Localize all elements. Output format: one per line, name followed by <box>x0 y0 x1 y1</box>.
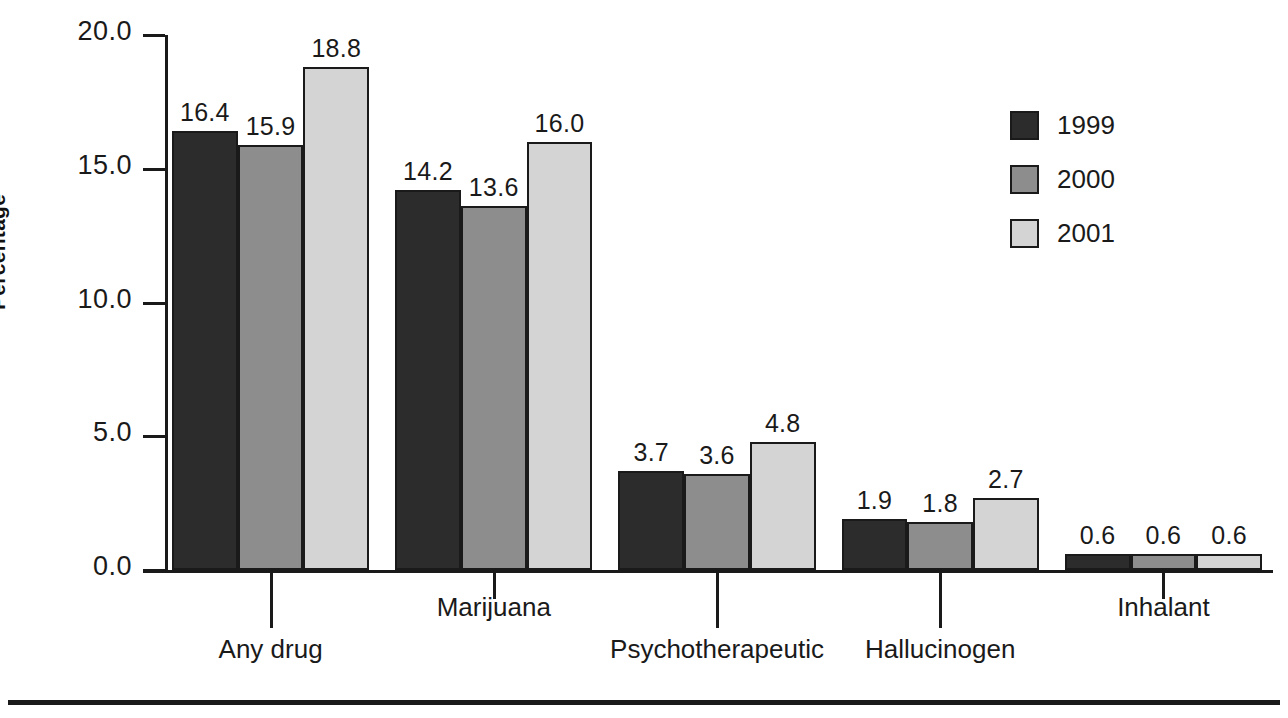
bar <box>238 145 304 570</box>
bar <box>172 131 238 570</box>
bar <box>907 522 973 570</box>
category-label: Inhalant <box>973 592 1288 623</box>
category-label: Any drug <box>81 634 461 665</box>
bar <box>973 498 1039 570</box>
category-label: Marijuana <box>304 592 684 623</box>
bar <box>303 67 369 570</box>
bar <box>842 519 908 570</box>
bar-value-label: 4.8 <box>738 409 828 438</box>
bar-value-label: 3.6 <box>672 441 762 470</box>
bar-chart: Percentage 0.05.010.015.020.0 16.415.918… <box>0 0 1288 718</box>
legend-swatch-2000-icon <box>1010 165 1039 194</box>
bar-value-label: 15.9 <box>226 112 316 141</box>
bar <box>461 206 527 570</box>
legend: 1999 2000 2001 <box>1010 104 1115 266</box>
bars-layer: 16.415.918.814.213.616.03.73.64.81.91.82… <box>0 0 1288 570</box>
category-tick <box>939 573 942 628</box>
legend-swatch-2001-icon <box>1010 219 1039 248</box>
bar <box>1065 554 1131 570</box>
category-tick <box>716 573 719 628</box>
bar <box>1131 554 1197 570</box>
footer-divider <box>8 700 1280 705</box>
bar-value-label: 2.7 <box>961 465 1051 494</box>
bar <box>684 474 750 570</box>
legend-item-2000: 2000 <box>1010 158 1115 200</box>
category-label: Hallucinogen <box>750 634 1130 665</box>
legend-swatch-1999-icon <box>1010 111 1039 140</box>
category-tick <box>270 573 273 628</box>
bar-value-label: 16.0 <box>515 109 605 138</box>
legend-label-1999: 1999 <box>1057 110 1115 141</box>
legend-item-1999: 1999 <box>1010 104 1115 146</box>
bar <box>395 190 461 570</box>
bar <box>1196 554 1262 570</box>
legend-item-2001: 2001 <box>1010 212 1115 254</box>
bar-value-label: 18.8 <box>291 34 381 63</box>
bar-value-label: 13.6 <box>449 173 539 202</box>
bar <box>527 142 593 570</box>
bar <box>618 471 684 570</box>
bar-value-label: 0.6 <box>1184 521 1274 550</box>
legend-label-2001: 2001 <box>1057 218 1115 249</box>
x-axis-baseline <box>143 570 1273 573</box>
legend-label-2000: 2000 <box>1057 164 1115 195</box>
bar <box>750 442 816 570</box>
